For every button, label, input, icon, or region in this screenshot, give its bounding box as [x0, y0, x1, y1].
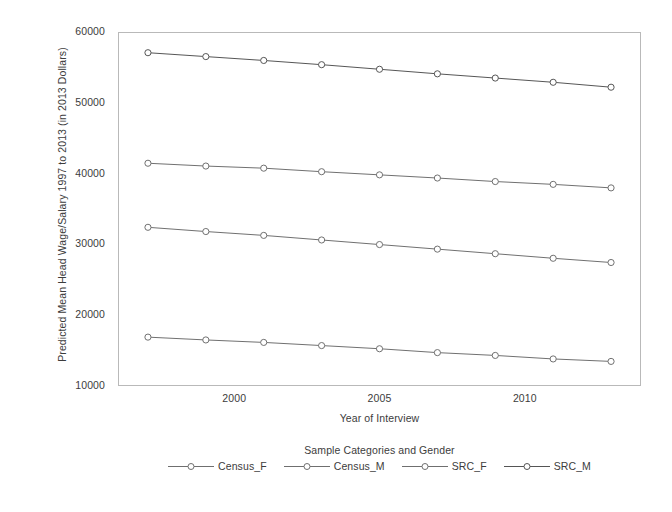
data-point-marker — [434, 175, 440, 181]
x-tick-label: 2010 — [490, 392, 560, 404]
series-src_m — [145, 50, 614, 91]
data-point-marker — [608, 84, 614, 90]
data-point-marker — [145, 160, 151, 166]
plot-lines-svg — [119, 33, 640, 385]
legend-entry-census_m[interactable]: Census_M — [284, 460, 385, 472]
y-axis-tick-labels: 100002000030000400005000060000 — [47, 0, 105, 512]
y-tick-label: 50000 — [47, 96, 105, 108]
plot-area — [118, 32, 641, 386]
data-point-marker — [261, 339, 267, 345]
data-point-marker — [376, 66, 382, 72]
y-tick-label: 20000 — [47, 308, 105, 320]
data-point-marker — [492, 178, 498, 184]
legend-title: Sample Categories and Gender — [118, 444, 641, 456]
data-point-marker — [319, 169, 325, 175]
data-point-marker — [145, 224, 151, 230]
data-point-marker — [550, 79, 556, 85]
data-point-marker — [145, 334, 151, 340]
data-point-marker — [203, 54, 209, 60]
data-point-marker — [492, 75, 498, 81]
y-tick-label: 10000 — [47, 379, 105, 391]
data-point-marker — [203, 228, 209, 234]
y-tick-label: 30000 — [47, 237, 105, 249]
data-point-marker — [434, 246, 440, 252]
data-point-marker — [608, 358, 614, 364]
legend-entry-src_f[interactable]: SRC_F — [402, 460, 487, 472]
legend-entry-label: SRC_M — [554, 460, 591, 472]
legend-swatch-line-marker — [284, 461, 330, 472]
data-point-marker — [145, 50, 151, 56]
data-point-marker — [376, 241, 382, 247]
legend-entry-label: Census_M — [334, 460, 385, 472]
legend-entry-census_f[interactable]: Census_F — [168, 460, 267, 472]
data-point-marker — [492, 251, 498, 257]
data-point-marker — [434, 350, 440, 356]
x-tick-label: 2000 — [199, 392, 269, 404]
data-point-marker — [550, 356, 556, 362]
chart-legend: Sample Categories and Gender Census_FCen… — [118, 444, 641, 472]
x-axis-title: Year of Interview — [118, 412, 641, 424]
legend-entry-src_m[interactable]: SRC_M — [504, 460, 591, 472]
data-point-marker — [319, 237, 325, 243]
chart-container: Predicted Mean Head Wage/Salary 1997 to … — [0, 0, 672, 512]
data-point-marker — [550, 255, 556, 261]
data-point-marker — [376, 172, 382, 178]
legend-swatch-line-marker — [504, 461, 550, 472]
data-point-marker — [434, 71, 440, 77]
data-point-marker — [492, 352, 498, 358]
data-point-marker — [608, 185, 614, 191]
y-tick-label: 40000 — [47, 167, 105, 179]
series-census_f — [145, 334, 614, 364]
data-point-marker — [203, 163, 209, 169]
data-point-marker — [319, 342, 325, 348]
data-point-marker — [608, 259, 614, 265]
data-point-marker — [550, 181, 556, 187]
y-tick-label: 60000 — [47, 25, 105, 37]
legend-swatch-line-marker — [402, 461, 448, 472]
data-point-marker — [376, 346, 382, 352]
legend-entry-list: Census_FCensus_MSRC_FSRC_M — [118, 460, 641, 472]
x-tick-label: 2005 — [345, 392, 415, 404]
data-point-marker — [261, 165, 267, 171]
data-point-marker — [319, 62, 325, 68]
data-point-marker — [203, 337, 209, 343]
series-src_f — [145, 224, 614, 265]
legend-swatch-line-marker — [168, 461, 214, 472]
data-point-marker — [261, 232, 267, 238]
legend-entry-label: Census_F — [218, 460, 267, 472]
series-census_m — [145, 160, 614, 191]
data-point-marker — [261, 57, 267, 63]
legend-entry-label: SRC_F — [452, 460, 487, 472]
